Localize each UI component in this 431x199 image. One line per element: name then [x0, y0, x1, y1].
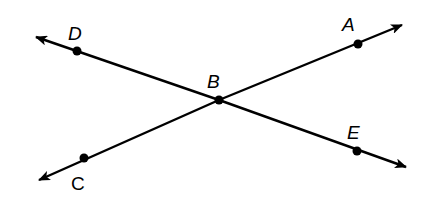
point-D	[73, 47, 82, 56]
point-C	[80, 154, 89, 163]
ray-toward-E-arrow	[219, 100, 406, 167]
diagram-canvas: D A B C E	[0, 0, 431, 199]
label-D: D	[68, 23, 82, 44]
ray-toward-C-arrow	[39, 100, 219, 180]
ray-toward-D-arrow	[36, 37, 219, 100]
label-A: A	[341, 14, 355, 35]
label-C: C	[71, 173, 85, 194]
ray-toward-A-arrow	[219, 25, 402, 100]
label-B: B	[207, 71, 220, 92]
point-B	[215, 96, 224, 105]
geometry-diagram: D A B C E	[0, 0, 431, 199]
point-E	[353, 147, 362, 156]
point-A	[354, 40, 363, 49]
label-E: E	[347, 122, 360, 143]
